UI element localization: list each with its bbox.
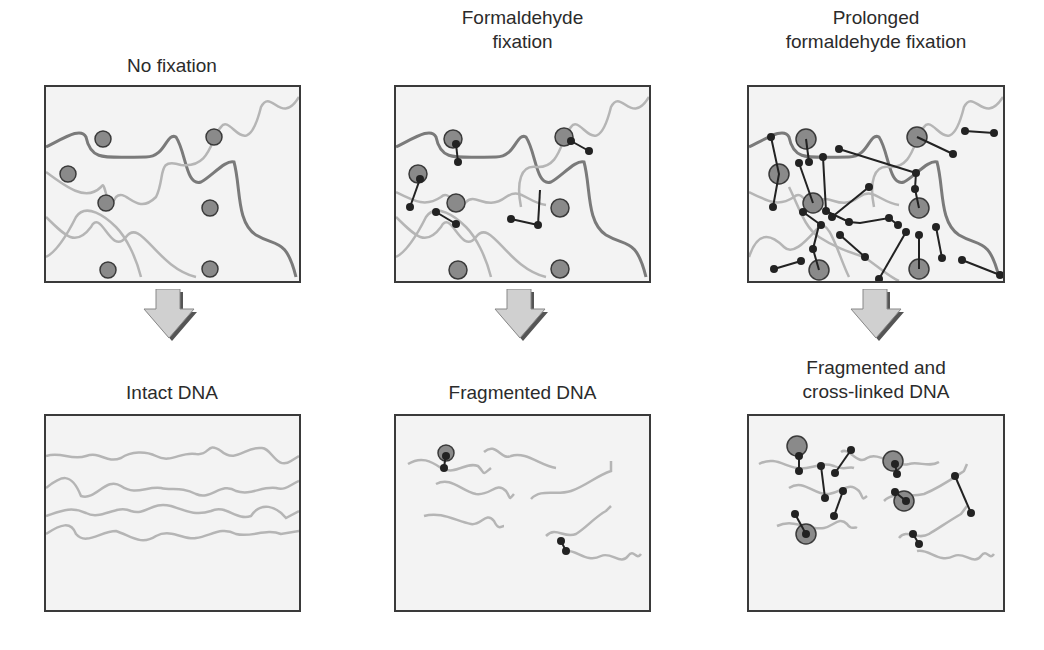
fixed-tissue-illustration xyxy=(396,87,649,281)
label-line-2: cross-linked DNA xyxy=(747,380,1005,404)
label-prolonged-fixation: Prolonged formaldehyde fixation xyxy=(747,6,1005,54)
fragmented-dna-illustration xyxy=(396,416,649,610)
down-arrow-3 xyxy=(849,289,909,349)
overfixed-tissue-illustration xyxy=(749,87,1003,281)
down-arrow-2 xyxy=(493,289,553,349)
label-fragmented-dna: Fragmented DNA xyxy=(394,381,651,405)
panel-prolonged-fixation xyxy=(747,85,1005,283)
dna-strands xyxy=(46,448,299,541)
intact-dna-illustration xyxy=(46,416,299,610)
panel-fragmented-dna xyxy=(394,414,651,612)
dna-fragments xyxy=(759,451,994,560)
down-arrow-1 xyxy=(142,289,202,349)
label-no-fixation: No fixation xyxy=(44,54,300,78)
panel-formaldehyde-fixation xyxy=(394,85,651,283)
native-tissue-illustration xyxy=(46,87,299,281)
label-line-1: Prolonged xyxy=(747,6,1005,30)
panel-fragmented-crosslinked-dna xyxy=(747,414,1005,612)
fragmented-crosslinked-dna-illustration xyxy=(749,416,1003,610)
label-intact-dna: Intact DNA xyxy=(44,381,300,405)
panel-no-fixation xyxy=(44,85,301,283)
panel-intact-dna xyxy=(44,414,301,612)
label-fragmented-crosslinked-dna: Fragmented and cross-linked DNA xyxy=(747,356,1005,404)
label-formaldehyde-fixation: Formaldehyde fixation xyxy=(394,6,651,54)
label-line-1: Fragmented and xyxy=(747,356,1005,380)
label-line-1: Formaldehyde xyxy=(394,6,651,30)
label-line-2: fixation xyxy=(394,30,651,54)
label-line-2: formaldehyde fixation xyxy=(747,30,1005,54)
